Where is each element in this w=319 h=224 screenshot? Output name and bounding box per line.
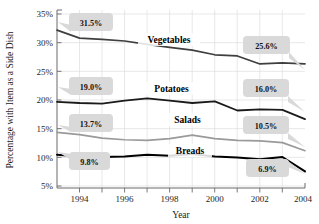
y-axis-title: Percentage with Item as a Side Dish: [5, 31, 15, 168]
x-tick-label: 2000: [206, 194, 225, 204]
series-label-breads: Breads: [168, 144, 212, 157]
y-tick-label: 35%: [37, 9, 54, 19]
series-label-text: Vegetables: [148, 35, 191, 45]
series-label-vegetables: Vegetables: [138, 33, 200, 46]
y-tick-label: 10%: [37, 153, 54, 163]
x-tick-label: 2002: [251, 194, 269, 204]
x-tick-label: 1998: [161, 194, 180, 204]
x-tick-marks: [80, 188, 283, 193]
callout-value: 13.7%: [80, 120, 103, 129]
callout-value: 6.9%: [258, 165, 276, 174]
line-chart: 35% 30% 25% 20% 15% 10% 5% 1994 1996 199…: [0, 0, 319, 224]
y-tick-label: 25%: [37, 67, 54, 77]
callout-value: 9.8%: [80, 158, 98, 167]
callout-value: 19.0%: [80, 83, 103, 92]
callout-value: 10.5%: [255, 122, 278, 131]
y-tick-label: 15%: [37, 124, 54, 134]
series-label-text: Potatoes: [154, 84, 189, 94]
y-tick-label: 20%: [37, 95, 54, 105]
series-label-text: Breads: [176, 146, 205, 156]
series-label-salads: Salads: [166, 113, 209, 126]
x-axis-title: Year: [172, 210, 190, 220]
chart-container: 35% 30% 25% 20% 15% 10% 5% 1994 1996 199…: [0, 0, 319, 224]
y-tick-label: 5%: [41, 181, 54, 191]
callout-value: 16.0%: [255, 85, 278, 94]
y-tick-labels: 35% 30% 25% 20% 15% 10% 5%: [37, 9, 54, 191]
x-tick-label: 1994: [71, 194, 90, 204]
series-label-text: Salads: [174, 115, 201, 125]
x-tick-labels: 1994 1996 1998 2000 2002 2004: [71, 194, 313, 204]
x-tick-label: 2004: [294, 194, 313, 204]
callout-value: 31.5%: [80, 19, 103, 28]
x-tick-label: 1996: [116, 194, 135, 204]
callout-value: 25.6%: [255, 42, 278, 51]
series-label-potatoes: Potatoes: [146, 82, 197, 95]
y-tick-label: 30%: [37, 38, 54, 48]
